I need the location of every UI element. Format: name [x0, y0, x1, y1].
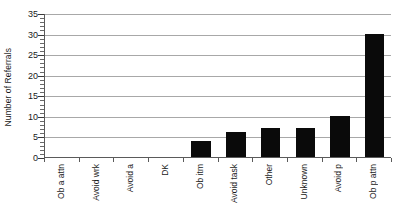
y-axis-tick-label: 10 [28, 112, 38, 121]
bar [296, 128, 315, 157]
x-axis-tick [148, 158, 149, 162]
gridline [45, 55, 391, 56]
y-axis-tick-label: 30 [28, 30, 38, 39]
x-axis-tick-label-text: Avoid wrk [92, 164, 101, 201]
y-axis-title-text: Number of Referrals [3, 48, 13, 126]
x-axis-tick-label-text: Avoid p [334, 164, 343, 192]
x-axis-tick [322, 158, 323, 162]
x-axis-tick-label-text: Other [265, 164, 274, 185]
bar [261, 128, 280, 157]
gridline [45, 14, 391, 15]
x-axis-tick [252, 158, 253, 162]
y-axis-title: Number of Referrals [0, 14, 16, 160]
gridline [45, 35, 391, 36]
x-axis-tick [218, 158, 219, 162]
x-axis-tick [44, 158, 45, 162]
x-axis-tick-label-text: Unknown [300, 164, 309, 199]
x-axis-tick-label-text: Ob p attn [369, 164, 378, 199]
y-axis-tick-label: 35 [28, 10, 38, 19]
x-axis-tick [391, 158, 392, 162]
bar-chart-figure: Number of Referrals 05101520253035 Ob a … [0, 0, 416, 222]
y-axis-tick-label: 20 [28, 71, 38, 80]
x-axis-tick-label-text: DK [161, 164, 170, 176]
x-axis-tick-label-text: Avoid a [126, 164, 135, 192]
x-axis-tick-label-text: Avoid task [230, 164, 239, 203]
gridline [45, 76, 391, 77]
bar [226, 132, 245, 157]
x-axis-tick [79, 158, 80, 162]
bar [365, 34, 384, 157]
x-axis-tick [113, 158, 114, 162]
y-axis-tick-labels: 05101520253035 [18, 10, 40, 162]
bar [191, 141, 210, 157]
plot-area [44, 14, 391, 158]
x-axis-tick-label: Ob p attn [345, 164, 403, 222]
bar [330, 116, 349, 157]
gridline [45, 96, 391, 97]
x-axis-tick [287, 158, 288, 162]
x-axis-tick-label-text: Ob itm [196, 164, 205, 189]
y-axis-tick-label: 25 [28, 51, 38, 60]
x-axis-tick-marks [44, 158, 391, 163]
x-axis-tick-labels: Ob a attnAvoid wrkAvoid aDKOb itmAvoid t… [44, 164, 391, 222]
x-axis-tick-label-text: Ob a attn [57, 164, 66, 199]
x-axis-tick [356, 158, 357, 162]
y-axis-tick-label: 15 [28, 92, 38, 101]
x-axis-tick [183, 158, 184, 162]
